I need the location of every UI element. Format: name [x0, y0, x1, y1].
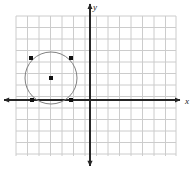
data-point-center	[49, 76, 53, 80]
coordinate-plane-svg: x y	[0, 0, 196, 170]
data-point-upper-left	[29, 56, 33, 60]
data-point-lower-left	[30, 98, 34, 102]
coordinate-plane-figure: x y	[0, 0, 196, 170]
data-point-lower-right	[69, 98, 73, 102]
y-axis-label: y	[92, 2, 97, 12]
x-axis-label: x	[184, 96, 189, 106]
data-point-upper-right	[69, 56, 73, 60]
